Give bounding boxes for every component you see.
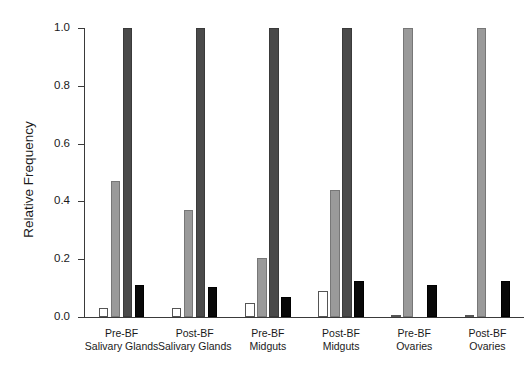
bar-group [378, 28, 451, 317]
bar-chart: Relative Frequency 1.00.80.60.40.20.0 Pr… [0, 0, 532, 376]
y-tick-label: 0.6 [28, 138, 70, 150]
bar [269, 28, 279, 317]
bar [391, 315, 401, 317]
bar [342, 28, 352, 317]
y-tick-label: 0.4 [28, 195, 70, 207]
bar [99, 308, 109, 317]
bar-group [158, 28, 231, 317]
x-axis-label-line1: Pre-BF [251, 327, 284, 339]
x-axis-label-line1: Post-BF [322, 327, 360, 339]
bar [318, 291, 328, 317]
bar-group [305, 28, 378, 317]
x-axis-line [84, 317, 524, 318]
y-tick-label: 1.0 [28, 22, 70, 34]
y-tick-label: 0.0 [28, 311, 70, 323]
bar [196, 28, 206, 317]
x-axis-label-line2: Ovaries [437, 340, 532, 353]
x-axis-label-line1: Post-BF [468, 327, 506, 339]
x-axis-label: Post-BFOvaries [437, 327, 532, 352]
bar [465, 315, 475, 317]
y-tick-label: 0.8 [28, 80, 70, 92]
plot-area [85, 28, 524, 317]
x-axis-label-line1: Pre-BF [398, 327, 431, 339]
bar [403, 28, 413, 317]
bar-group [85, 28, 158, 317]
bar [354, 281, 364, 317]
bar [184, 210, 194, 317]
bar-group [231, 28, 304, 317]
bar [208, 287, 218, 317]
y-tick-label: 0.2 [28, 253, 70, 265]
bar [135, 285, 145, 317]
bar [172, 308, 182, 317]
bar [477, 28, 487, 317]
bar [281, 297, 291, 317]
bar [245, 303, 255, 317]
bar [111, 181, 121, 317]
bar [257, 258, 267, 317]
bar [427, 285, 437, 317]
x-axis-label-line1: Post-BF [176, 327, 214, 339]
bar [123, 28, 133, 317]
bar-group [451, 28, 524, 317]
bar [501, 281, 511, 317]
bar [330, 190, 340, 317]
x-axis-label-line1: Pre-BF [105, 327, 138, 339]
